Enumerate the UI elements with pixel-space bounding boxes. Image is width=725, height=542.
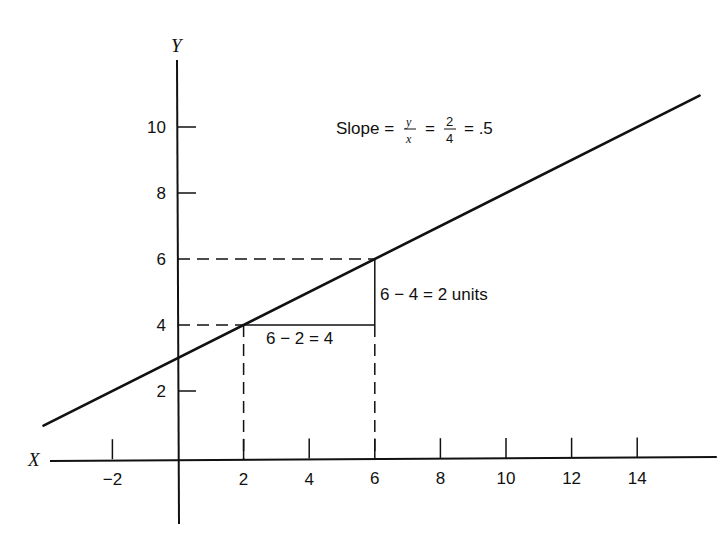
slope-annotation: Slope = y x = 2 4 = .5 (336, 114, 493, 146)
x-tick-label: 12 (562, 469, 581, 488)
rise-annotation: 6 − 4 = 2 units (380, 285, 488, 304)
slope-numerator-2: 2 (446, 114, 453, 129)
x-tick-label: 10 (497, 469, 516, 488)
series-group (44, 96, 700, 426)
y-axis-label: Y (171, 35, 184, 56)
y-tick-label: 2 (157, 382, 166, 401)
slope-denominator-x: x (405, 132, 412, 146)
slope-numerator-y: y (405, 115, 412, 129)
guide-lines (178, 259, 375, 459)
x-tick-label: 8 (436, 469, 445, 488)
series-line (44, 96, 700, 426)
slope-result: = .5 (464, 119, 493, 138)
y-axis-line (177, 60, 179, 524)
run-annotation: 6 − 2 = 4 (266, 329, 333, 348)
y-tick-label: 4 (157, 316, 166, 335)
x-tick-label: 6 (370, 469, 379, 488)
x-tick-label: 14 (628, 469, 647, 488)
y-tick-label: 10 (147, 118, 166, 137)
y-tick-label: 8 (157, 184, 166, 203)
x-tick-label: 4 (304, 470, 313, 489)
x-axis-line (50, 457, 717, 461)
x-tick-label: −2 (103, 470, 122, 489)
x-tick-label: 2 (239, 470, 248, 489)
slope-denominator-4: 4 (446, 131, 453, 146)
y-tick-label: 6 (157, 250, 166, 269)
slope-chart: −22468101214246810 X Y Slope = y x = 2 4… (0, 0, 725, 542)
slope-prefix: Slope = (336, 119, 394, 138)
slope-equals-1: = (425, 119, 435, 138)
x-axis-label: X (27, 449, 41, 470)
